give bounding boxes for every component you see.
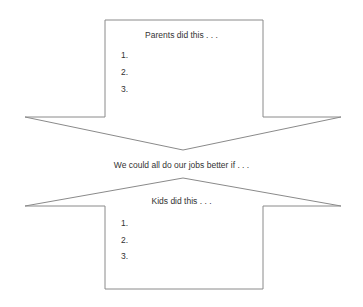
middle-prompt: We could all do our jobs better if . . . bbox=[0, 160, 363, 170]
parents-item-1: 1. bbox=[121, 50, 128, 60]
diagram-canvas bbox=[0, 0, 363, 307]
parents-item-3: 3. bbox=[121, 84, 128, 94]
parents-heading: Parents did this . . . bbox=[0, 30, 363, 40]
kids-heading: Kids did this . . . bbox=[0, 196, 363, 206]
kids-item-1: 1. bbox=[121, 218, 128, 228]
kids-item-2: 2. bbox=[121, 235, 128, 245]
parents-item-2: 2. bbox=[121, 67, 128, 77]
kids-item-3: 3. bbox=[121, 251, 128, 261]
up-arrow-shape bbox=[25, 178, 341, 289]
